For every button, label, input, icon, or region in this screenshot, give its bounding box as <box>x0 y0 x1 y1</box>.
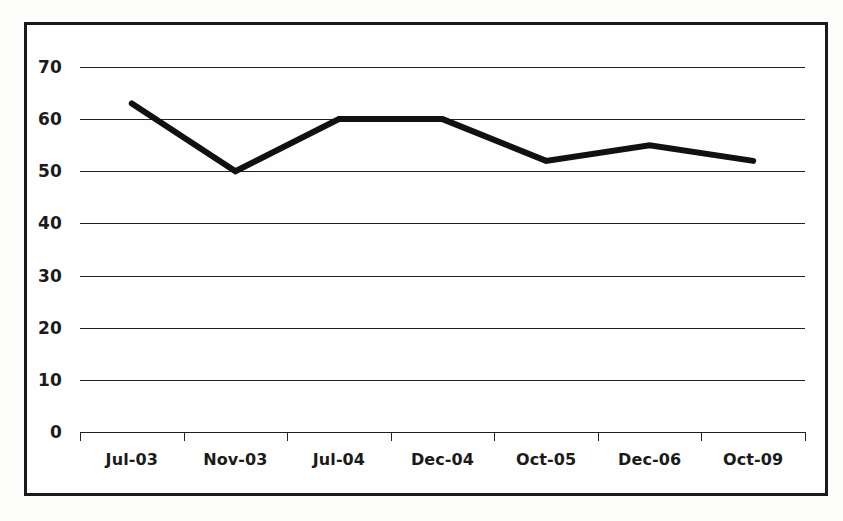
gridline-30 <box>80 276 805 277</box>
x-tick-7 <box>805 432 806 441</box>
y-tick-label-60: 60 <box>0 109 62 129</box>
x-tick-label-dec-06: Dec-06 <box>598 450 702 469</box>
gridline-20 <box>80 328 805 329</box>
y-tick-label-70: 70 <box>0 57 62 77</box>
gridline-60 <box>80 119 805 120</box>
x-tick-label-jul-04: Jul-04 <box>287 450 391 469</box>
y-tick-label-30: 30 <box>0 266 62 286</box>
x-tick-0 <box>80 432 81 441</box>
y-tick-label-40: 40 <box>0 213 62 233</box>
gridline-70 <box>80 67 805 68</box>
x-tick-2 <box>287 432 288 441</box>
y-tick-label-20: 20 <box>0 318 62 338</box>
x-tick-1 <box>184 432 185 441</box>
x-tick-label-oct-09: Oct-09 <box>701 450 805 469</box>
x-tick-3 <box>391 432 392 441</box>
y-tick-label-50: 50 <box>0 161 62 181</box>
x-tick-6 <box>701 432 702 441</box>
plot-area <box>80 67 805 432</box>
gridline-10 <box>80 380 805 381</box>
x-tick-label-jul-03: Jul-03 <box>80 450 184 469</box>
x-axis-line <box>80 432 805 433</box>
y-axis-tick-labels: 010203040506070 <box>0 0 62 521</box>
gridline-50 <box>80 171 805 172</box>
x-tick-label-oct-05: Oct-05 <box>494 450 598 469</box>
gridline-40 <box>80 223 805 224</box>
x-tick-5 <box>598 432 599 441</box>
x-tick-4 <box>494 432 495 441</box>
x-tick-label-nov-03: Nov-03 <box>183 450 287 469</box>
chart-figure: 010203040506070 Jul-03Nov-03Jul-04Dec-04… <box>0 0 843 521</box>
y-tick-label-0: 0 <box>0 422 62 442</box>
y-tick-label-10: 10 <box>0 370 62 390</box>
x-tick-label-dec-04: Dec-04 <box>391 450 495 469</box>
